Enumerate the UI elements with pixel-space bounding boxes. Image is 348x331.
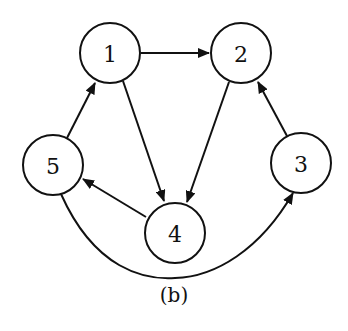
node-2: 2 — [211, 23, 271, 83]
edge-2-to-4 — [187, 82, 229, 202]
node-5: 5 — [23, 135, 83, 195]
edge-3-to-2 — [258, 82, 287, 136]
edge-5-to-1 — [67, 83, 95, 138]
edge-1-to-4 — [123, 81, 164, 201]
node-4: 4 — [145, 203, 205, 263]
node-4-label: 4 — [168, 222, 182, 247]
node-2-label: 2 — [234, 42, 248, 67]
node-1: 1 — [80, 23, 140, 83]
directed-graph: 1 2 3 4 5 — [0, 0, 348, 331]
node-3-label: 3 — [294, 152, 308, 177]
edge-4-to-5 — [83, 179, 146, 217]
node-1-label: 1 — [103, 42, 117, 67]
node-3: 3 — [271, 133, 331, 193]
figure-caption: (b) — [0, 283, 348, 307]
node-5-label: 5 — [46, 154, 60, 179]
